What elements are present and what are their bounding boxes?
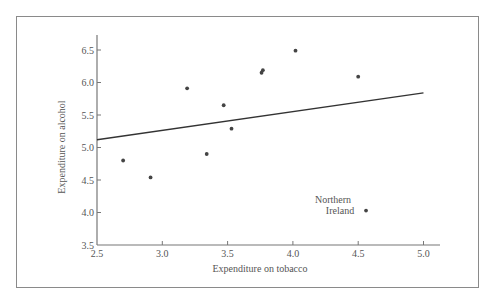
data-point: [205, 152, 209, 156]
data-point: [356, 75, 360, 79]
y-tick-label: 4.0: [82, 207, 95, 218]
y-tick-label: 6.5: [82, 45, 95, 56]
data-point: [149, 176, 153, 180]
annotation-northern: Northern: [315, 194, 351, 205]
x-axis-title: Expenditure on tobacco: [213, 263, 308, 274]
data-point: [121, 159, 125, 163]
x-tick-label: 5.0: [417, 248, 430, 259]
x-tick-label: 4.0: [287, 248, 300, 259]
y-tick-label: 6.0: [82, 77, 95, 88]
data-point: [230, 127, 234, 131]
x-tick-label: 3.0: [156, 248, 169, 259]
data-point: [261, 68, 265, 72]
fit-line: [97, 93, 424, 140]
y-tick-label: 5.0: [82, 142, 95, 153]
x-tick-label: 4.5: [352, 248, 365, 259]
y-tick-label: 5.5: [82, 110, 95, 121]
axes: 2.53.03.54.04.55.03.54.04.55.05.56.06.5: [82, 35, 441, 259]
data-point: [294, 49, 298, 53]
annotation-ireland: Ireland: [326, 205, 354, 216]
y-tick-label: 3.5: [82, 240, 95, 251]
scatter-plot: 2.53.03.54.04.55.03.54.04.55.05.56.06.5 …: [0, 0, 498, 299]
y-tick-label: 4.5: [82, 175, 95, 186]
data-point: [222, 103, 226, 107]
data-point-northern-ireland: [364, 209, 368, 213]
x-tick-label: 3.5: [221, 248, 234, 259]
y-axis-title: Expenditure on alcohol: [56, 100, 67, 194]
regression-line: [97, 93, 424, 140]
data-point: [185, 86, 189, 90]
